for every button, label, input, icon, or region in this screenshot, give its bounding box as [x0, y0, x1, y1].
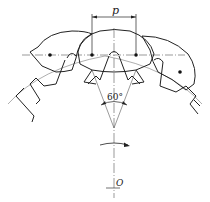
roller-right	[154, 58, 163, 62]
roller-left	[67, 53, 76, 58]
rotation-arrowhead	[124, 143, 130, 148]
sprocket-tooth-right	[160, 62, 200, 114]
pin-center-2	[90, 53, 94, 57]
pin-center-3	[134, 53, 138, 57]
pitch-arrow-right	[131, 16, 136, 19]
rotation-arrow	[100, 143, 128, 145]
pin-center-4	[178, 70, 182, 74]
sprocket-diagram: p 60° O	[0, 0, 210, 202]
pitch-label: p	[112, 4, 119, 17]
pin-center-1	[48, 53, 52, 57]
sprocket-tooth-left	[16, 60, 65, 122]
angle-label: 60°	[107, 92, 123, 102]
pitch-arrow-left	[92, 16, 97, 19]
center-label: O	[116, 178, 124, 188]
